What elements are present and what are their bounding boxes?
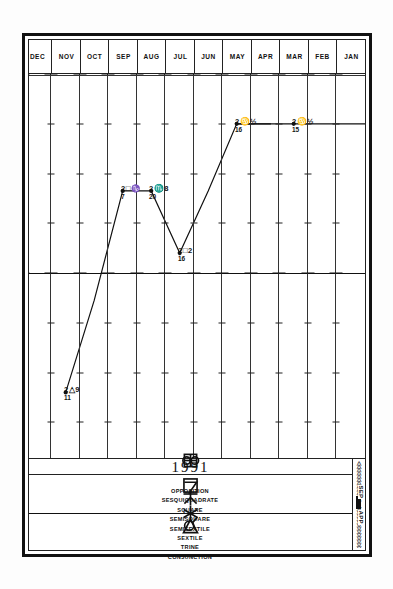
axis-tick xyxy=(219,322,226,323)
month-cell-jul: JUL xyxy=(165,40,194,73)
axis-tick xyxy=(216,74,229,75)
axis-tick xyxy=(162,421,169,422)
axis-tick xyxy=(102,74,115,75)
month-cell-apr: APR xyxy=(251,40,280,73)
axis-tick xyxy=(333,222,340,223)
axis-tick xyxy=(219,372,226,373)
annotation-minute: ½ xyxy=(306,116,312,125)
month-cell-mar: MAR xyxy=(279,40,308,73)
month-label: JUN xyxy=(201,52,216,59)
point-annotation: 2□216 xyxy=(177,247,191,263)
axis-tick xyxy=(76,372,83,373)
axis-tick xyxy=(29,272,30,273)
axis-tick xyxy=(45,272,58,273)
axis-tick xyxy=(304,222,311,223)
axis-tick xyxy=(105,322,112,323)
axis-tick xyxy=(333,322,340,323)
annotation-day: 11 xyxy=(63,394,70,401)
annotation-degree: 2 xyxy=(234,116,238,125)
month-cell-feb: FEB xyxy=(308,40,337,73)
axis-tick xyxy=(276,372,283,373)
axis-tick xyxy=(133,372,140,373)
point-annotation: 2♋½16 xyxy=(234,117,255,133)
month-label: JAN xyxy=(343,52,358,59)
axis-tick xyxy=(105,123,112,124)
axis-tick xyxy=(276,173,283,174)
point-annotation: 2♏820 xyxy=(149,184,168,200)
axis-tick xyxy=(333,372,340,373)
axis-tick xyxy=(48,372,55,373)
axis-tick xyxy=(133,173,140,174)
axis-tick xyxy=(162,123,169,124)
annotation-sign: ♋ xyxy=(295,116,306,125)
axis-tick xyxy=(159,74,172,75)
axis-tick xyxy=(48,173,55,174)
grid-hline xyxy=(335,74,336,458)
axis-tick xyxy=(187,74,200,75)
month-cell-nov: NOV xyxy=(51,40,80,73)
annotation-minute: 2 xyxy=(187,246,191,255)
annotation-sign: □ xyxy=(124,183,130,192)
axis-tick xyxy=(276,421,283,422)
axis-tick xyxy=(133,322,140,323)
annotation-sign: △ xyxy=(67,385,74,394)
annotation-day: 7 xyxy=(120,193,124,200)
month-label: MAR xyxy=(286,53,302,60)
legend-body: 1991 OPPOSITIONSESQUIQUADRATESQUARESEMIS… xyxy=(29,459,352,550)
grid-hline xyxy=(278,74,279,458)
axis-tick xyxy=(48,421,55,422)
separating-label: SEP xyxy=(358,484,364,499)
legend-item-conjunction[interactable]: CONJUNCTION xyxy=(29,540,352,549)
month-label: APR xyxy=(258,52,273,59)
month-label: AUG xyxy=(143,52,159,59)
axis-tick xyxy=(48,222,55,223)
axis-tick xyxy=(190,222,197,223)
annotation-sign: ♏ xyxy=(153,183,164,192)
annotation-degree: 2 xyxy=(120,183,124,192)
axis-tick xyxy=(190,123,197,124)
annotation-day: 15 xyxy=(291,125,298,132)
axis-tick xyxy=(330,74,343,75)
point-annotation: 2□♑7 xyxy=(120,184,139,200)
axis-tick xyxy=(276,222,283,223)
annotation-minute: ½ xyxy=(249,116,255,125)
conjunction-glyph xyxy=(179,511,201,533)
axis-tick xyxy=(247,222,254,223)
annotation-minute: ♑ xyxy=(130,183,139,192)
axis-tick xyxy=(76,322,83,323)
axis-tick xyxy=(273,74,286,75)
axis-tick xyxy=(247,173,254,174)
axis-tick xyxy=(187,272,200,273)
grid-hline xyxy=(221,74,222,458)
grid-hline xyxy=(193,74,194,458)
grid-hline xyxy=(136,74,137,458)
axis-tick xyxy=(45,74,58,75)
axis-tick xyxy=(29,74,30,75)
axis-tick xyxy=(219,173,226,174)
month-cell-may: MAY xyxy=(222,40,251,73)
axis-tick xyxy=(162,322,169,323)
annotation-degree: 2 xyxy=(291,116,295,125)
month-cell-oct: OCT xyxy=(80,40,109,73)
axis-tick xyxy=(73,272,86,273)
month-label: MAY xyxy=(229,52,244,59)
axis-tick xyxy=(76,421,83,422)
legend-panel: <<<<<<<<<<<<<<<<<<<<<<<<<<<<<<<<<<<<<<<<… xyxy=(29,458,365,550)
axis-tick xyxy=(333,173,340,174)
axis-tick xyxy=(102,272,115,273)
month-label: SEP xyxy=(115,52,130,59)
month-cell-aug: AUG xyxy=(137,40,166,73)
series-path xyxy=(65,123,270,392)
annotation-day: 16 xyxy=(234,125,241,132)
axis-tick xyxy=(190,173,197,174)
axis-tick xyxy=(162,173,169,174)
annotation-day: 16 xyxy=(177,255,184,262)
axis-tick xyxy=(219,222,226,223)
axis-tick xyxy=(105,173,112,174)
month-cell-sep: SEP xyxy=(108,40,137,73)
axis-tick xyxy=(130,74,143,75)
month-label: OCT xyxy=(87,52,102,59)
axis-tick xyxy=(133,222,140,223)
plot-area: JANFEBMARAPRMAYJUNJULAUGSEPOCTNOVDEC 2♋½… xyxy=(29,40,365,550)
grid-hline xyxy=(164,74,165,458)
